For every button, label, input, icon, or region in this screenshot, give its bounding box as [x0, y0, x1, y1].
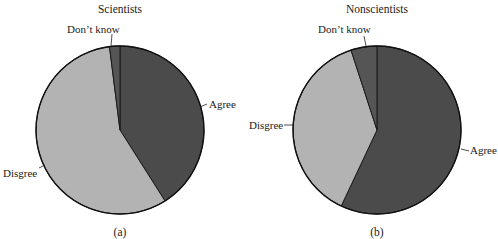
chart-title-nonscientists: Nonscientists — [346, 3, 408, 15]
label-disagree: Disgree — [3, 167, 37, 179]
leader-line-agree — [461, 149, 469, 151]
pie-slices-nonscientists — [293, 46, 461, 214]
label-dontknow: Don’t know — [318, 23, 371, 35]
pie-chart-nonscientists: Nonscientists Don’t know Disgree Agree (… — [249, 3, 497, 239]
label-agree: Agree — [209, 98, 236, 110]
caption-a: (a) — [114, 226, 127, 239]
caption-b: (b) — [370, 226, 384, 239]
label-agree: Agree — [470, 144, 497, 156]
leader-line-dontknow — [111, 34, 112, 46]
label-disagree: Disgree — [249, 119, 283, 131]
label-dontknow: Don’t know — [67, 23, 120, 35]
pie-charts-figure: Scientists Don’t know Agree Disgree (a) … — [0, 0, 498, 239]
pie-slices-scientists — [36, 46, 204, 214]
chart-title-scientists: Scientists — [98, 3, 143, 15]
pie-chart-scientists: Scientists Don’t know Agree Disgree (a) — [3, 3, 236, 239]
leader-line-dontknow — [364, 36, 366, 46]
